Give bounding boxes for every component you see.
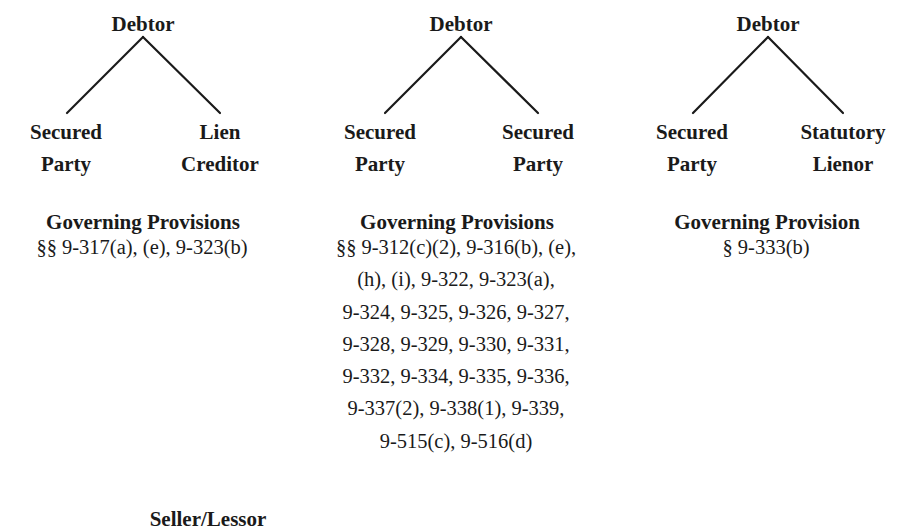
tree-3-edges: [693, 37, 843, 113]
edge-debtor-secured-party: [67, 37, 143, 113]
child-node-secured-party-left: Secured Party: [344, 116, 416, 180]
edge-debtor-secured-party-right: [461, 37, 538, 113]
governing-provisions-citations: §§ 9-317(a), (e), 9-323(b): [36, 231, 247, 263]
child-node-secured-party-right: Secured Party: [502, 116, 574, 180]
child-node-statutory-lienor: Statutory Lienor: [800, 116, 885, 180]
governing-provisions-citations: §§ 9-312(c)(2), 9-316(b), (e), (h), (i),…: [336, 231, 576, 457]
edge-debtor-secured-party-left: [385, 37, 461, 113]
child-node-secured-party: Secured Party: [30, 116, 102, 180]
edge-debtor-statutory-lienor: [768, 37, 843, 113]
root-node-debtor: Debtor: [737, 8, 800, 40]
root-node-seller-lessor: Seller/Lessor: [150, 503, 267, 531]
child-node-secured-party: Secured Party: [656, 116, 728, 180]
tree-2-edges: [385, 37, 538, 113]
root-node-debtor: Debtor: [112, 8, 175, 40]
root-node-debtor: Debtor: [430, 8, 493, 40]
governing-provision-citation: § 9-333(b): [722, 231, 809, 263]
edge-debtor-secured-party: [693, 37, 768, 113]
child-node-lien-creditor: Lien Creditor: [181, 116, 259, 180]
tree-1-edges: [67, 37, 220, 113]
edge-debtor-lien-creditor: [143, 37, 220, 113]
